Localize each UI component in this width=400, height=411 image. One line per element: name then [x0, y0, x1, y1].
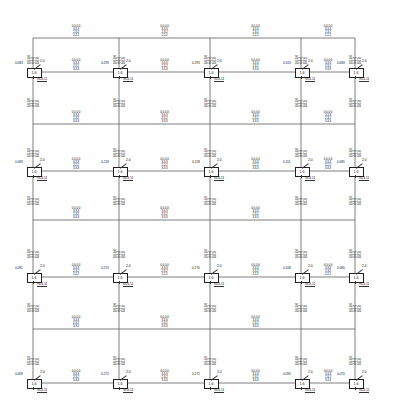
midspan-annotation-20-line-3: 2-2-2: [160, 273, 168, 276]
support-tick-r0-c1: [119, 76, 120, 80]
section-tag-r2-c1[interactable]: GL4-11: [123, 282, 133, 287]
midspan-annotation-24: 0.0-0.03-3-32-3-23-3-3: [160, 316, 168, 328]
column-annotation-31: 0.0-0.03-3-32-2-20-0-0: [350, 196, 362, 205]
column-annotation-7: 0.0-0.03-3-32-2-20-0-0: [114, 55, 126, 64]
support-dimension-r1-c3: 2.0: [308, 158, 313, 162]
midspan-annotation-7-line-3: 3-3-3: [324, 68, 332, 71]
column-annotation-21: 0.0-0.03-3-32-2-20-0-0: [296, 55, 308, 64]
midspan-annotation-26: 0.0-0.03-3-32-3-23-3-3: [72, 370, 80, 382]
section-tag-r0-c1[interactable]: GL4-11: [123, 77, 133, 82]
support-tick-r2-c1: [119, 281, 120, 285]
column-annotation-31-line-3: 0-0-0: [359, 196, 362, 205]
section-tag-r2-c2[interactable]: GL4-11: [214, 282, 224, 287]
support-tick-r1-c2: [210, 175, 211, 179]
support-dimension-r3-c0: 2.0: [40, 370, 45, 374]
support-dimension-r3-c2: 2.0: [217, 370, 222, 374]
support-load-r3-c3: 0.090: [283, 372, 291, 376]
section-tag-r3-c1[interactable]: GL4-11: [123, 388, 133, 393]
section-tag-r2-c0[interactable]: GL4-11: [37, 282, 47, 287]
section-tag-r0-c4[interactable]: GL4-11: [359, 77, 369, 82]
column-annotation-1-line-3: 0-0-0: [37, 98, 40, 107]
support-tick-r3-c2: [210, 387, 211, 391]
support-dimension-r3-c4: 2.0: [362, 370, 367, 374]
column-annotation-16: 0.0-0.03-3-32-2-20-0-0: [205, 148, 217, 157]
midspan-annotation-9-line-3: 3-3-3: [160, 120, 168, 123]
section-tag-r1-c3[interactable]: GL4-11: [305, 176, 315, 181]
support-tick-r2-c4: [355, 281, 356, 285]
support-load-r2-c0: 0.081: [15, 266, 23, 270]
section-tag-r0-c3[interactable]: GL4-11: [305, 77, 315, 82]
support-load-r0-c2: 0.293: [192, 61, 200, 65]
column-annotation-20: 0.0-0.03-3-32-2-20-0-0: [205, 356, 217, 365]
support-dimension-r1-c1: 2.0: [126, 158, 131, 162]
midspan-annotation-3-line-3: 2-2-2: [324, 34, 332, 37]
support-tick-r1-c3: [301, 175, 302, 179]
support-tick-r3-c1: [119, 387, 120, 391]
support-dimension-r2-c1: 2.0: [126, 264, 131, 268]
column-annotation-27-line-3: 0-0-0: [305, 356, 308, 365]
column-annotation-20-line-3: 0-0-0: [214, 356, 217, 365]
midspan-annotation-17-line-3: 3-3-3: [160, 216, 168, 219]
column-annotation-1: 0.0-0.03-3-32-2-20-0-0: [28, 98, 40, 107]
midspan-annotation-12-line-3: 3-3-3: [72, 167, 80, 170]
section-tag-r0-c2[interactable]: GL4-11: [214, 77, 224, 82]
support-tick-r3-c0: [33, 387, 34, 391]
midspan-annotation-15-line-3: 3-3-3: [324, 167, 332, 170]
support-dimension-r1-c4: 2.0: [362, 158, 367, 162]
section-tag-r3-c3[interactable]: GL4-11: [305, 388, 315, 393]
midspan-annotation-16-line-3: 3-3-3: [72, 216, 80, 219]
midspan-annotation-27-line-3: 3-3-3: [160, 379, 168, 382]
section-tag-r1-c1[interactable]: GL4-11: [123, 176, 133, 181]
midspan-annotation-0-line-3: 2-2-2: [72, 34, 80, 37]
column-annotation-33: 0.0-0.03-3-32-2-20-0-0: [350, 303, 362, 312]
section-tag-r1-c2[interactable]: GL4-11: [214, 176, 224, 181]
midspan-annotation-27: 0.0-0.03-3-32-3-23-3-3: [160, 370, 168, 382]
support-dimension-r1-c2: 2.0: [217, 158, 222, 162]
column-annotation-29: 0.0-0.03-3-32-2-20-0-0: [350, 98, 362, 107]
column-annotation-15: 0.0-0.03-3-32-2-20-0-0: [205, 98, 217, 107]
midspan-annotation-26-line-3: 3-3-3: [72, 379, 80, 382]
section-tag-r3-c2[interactable]: GL4-11: [214, 388, 224, 393]
column-annotation-32-line-3: 0-0-0: [359, 249, 362, 258]
section-tag-r3-c4[interactable]: GL4-11: [359, 388, 369, 393]
midspan-annotation-10: 0.0-0.03-3-32-3-23-3-3: [251, 111, 259, 123]
column-annotation-6: 0.0-0.03-3-32-2-20-0-0: [28, 356, 40, 365]
column-annotation-10: 0.0-0.03-3-32-2-20-0-0: [114, 196, 126, 205]
midspan-annotation-7: 0.0-0.03-3-32-3-23-3-3: [324, 59, 332, 71]
column-annotation-4-line-3: 0-0-0: [37, 249, 40, 258]
support-load-r2-c3: 0.108: [283, 266, 291, 270]
midspan-annotation-1-line-3: 2-2-2: [160, 34, 168, 37]
support-dimension-r3-c1: 2.0: [126, 370, 131, 374]
midspan-annotation-21: 0.0-0.03-3-32-3-22-2-2: [251, 264, 259, 276]
column-annotation-3-line-3: 0-0-0: [37, 196, 40, 205]
support-tick-r1-c1: [119, 175, 120, 179]
support-tick-r3-c3: [301, 387, 302, 391]
column-annotation-3: 0.0-0.03-3-32-2-20-0-0: [28, 196, 40, 205]
column-annotation-18-line-3: 0-0-0: [214, 249, 217, 258]
column-annotation-19: 0.0-0.03-3-32-2-20-0-0: [205, 303, 217, 312]
section-tag-r1-c0[interactable]: GL4-11: [37, 176, 47, 181]
column-annotation-13-line-3: 0-0-0: [123, 356, 126, 365]
midspan-annotation-29: 0.0-0.03-3-32-3-23-3-3: [324, 370, 332, 382]
midspan-annotation-18-line-3: 3-3-3: [251, 216, 259, 219]
column-annotation-32: 0.0-0.03-3-32-2-20-0-0: [350, 249, 362, 258]
midspan-annotation-14-line-3: 3-3-3: [251, 167, 259, 170]
section-tag-r3-c0[interactable]: GL4-11: [37, 388, 47, 393]
column-annotation-12: 0.0-0.03-3-32-2-20-0-0: [114, 303, 126, 312]
support-dimension-r2-c3: 2.0: [308, 264, 313, 268]
section-tag-r0-c0[interactable]: GL4-11: [37, 77, 47, 82]
support-load-r0-c0: 0.083: [15, 61, 23, 65]
support-load-r0-c3: 0.103: [283, 61, 291, 65]
column-annotation-4: 0.0-0.03-3-32-2-20-0-0: [28, 249, 40, 258]
column-annotation-2: 0.0-0.03-3-32-2-20-0-0: [28, 148, 40, 157]
section-tag-r2-c3[interactable]: GL4-11: [305, 282, 315, 287]
section-tag-r2-c4[interactable]: GL4-11: [359, 282, 369, 287]
section-tag-r1-c4[interactable]: GL4-11: [359, 176, 369, 181]
column-annotation-17-line-3: 0-0-0: [214, 196, 217, 205]
support-tick-r1-c4: [355, 175, 356, 179]
column-annotation-0: 0.0-0.03-3-32-2-20-0-0: [28, 55, 40, 64]
support-load-r0-c4: 0.083: [337, 61, 345, 65]
support-load-r1-c0: 0.083: [15, 160, 23, 164]
support-tick-r2-c3: [301, 281, 302, 285]
column-annotation-34: 0.0-0.03-3-32-2-20-0-0: [350, 356, 362, 365]
